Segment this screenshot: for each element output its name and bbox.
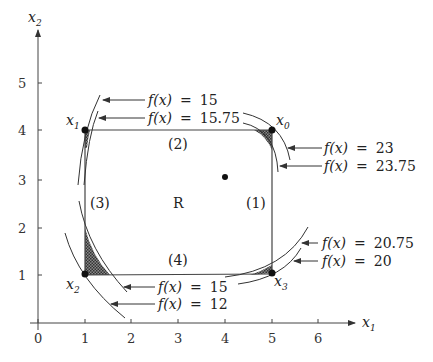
- x-tick-3: 3: [174, 331, 182, 346]
- label-f15-top: f(x)=15: [147, 92, 218, 108]
- center-point: [222, 174, 228, 180]
- x-tick-2: 2: [127, 331, 135, 346]
- y-tick-3: 3: [18, 173, 26, 188]
- vertex-x0-label: x0: [276, 112, 290, 131]
- label-f20-75: f(x)=20.75: [321, 235, 414, 251]
- constraint-3-label: (3): [90, 195, 110, 211]
- diagram: x1 x2 0 1 2 3 4 5 6 1 2 3 4 5: [0, 0, 433, 362]
- vertex-x1-label: x1: [66, 112, 80, 131]
- y-tick-1: 1: [18, 268, 26, 283]
- y-tick-4: 4: [18, 123, 26, 138]
- x-tick-5: 5: [268, 331, 276, 346]
- x-tick-1: 1: [81, 331, 89, 346]
- vertex-x0: [269, 127, 276, 134]
- x-tick-0: 0: [34, 331, 42, 346]
- vertex-x2-label: x2: [66, 276, 80, 295]
- y-tick-5: 5: [18, 76, 26, 91]
- label-f15-75: f(x)=15.75: [147, 110, 240, 126]
- constraint-1-label: (1): [246, 195, 266, 211]
- x-tick-4: 4: [221, 331, 229, 346]
- region-label: R: [173, 195, 184, 211]
- label-f23-75: f(x)=23.75: [323, 158, 416, 174]
- x-axis-label: x1: [362, 314, 376, 333]
- label-f23: f(x)=23: [323, 140, 394, 156]
- contour-x3-outer: [238, 248, 301, 284]
- y-axis-label: x2: [28, 9, 42, 28]
- vertex-x1: [82, 127, 89, 134]
- label-f20: f(x)=20: [321, 253, 392, 269]
- y-ticks: [38, 83, 42, 275]
- constraint-4-label: (4): [168, 252, 188, 268]
- contour-x1-outer: [78, 95, 100, 185]
- constraint-2-label: (2): [168, 136, 188, 152]
- x-tick-6: 6: [314, 331, 322, 346]
- vertex-x3-label: x3: [274, 273, 288, 292]
- label-f15-bottom: f(x)=15: [157, 279, 228, 295]
- x-ticks: [38, 319, 318, 323]
- y-tick-2: 2: [18, 221, 26, 236]
- label-f12: f(x)=12: [157, 296, 228, 312]
- vertex-x2: [82, 271, 89, 278]
